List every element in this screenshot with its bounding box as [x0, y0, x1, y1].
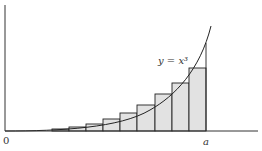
rectangle: [172, 83, 189, 131]
curve-label: y = x³: [158, 56, 188, 66]
origin-label: 0: [3, 136, 9, 146]
endpoint-a-label: a: [203, 137, 209, 147]
rectangles: [52, 68, 206, 131]
rectangle: [155, 94, 172, 131]
rectangle: [120, 113, 137, 131]
rectangle: [189, 68, 206, 131]
riemann-sum-figure: [0, 0, 262, 151]
